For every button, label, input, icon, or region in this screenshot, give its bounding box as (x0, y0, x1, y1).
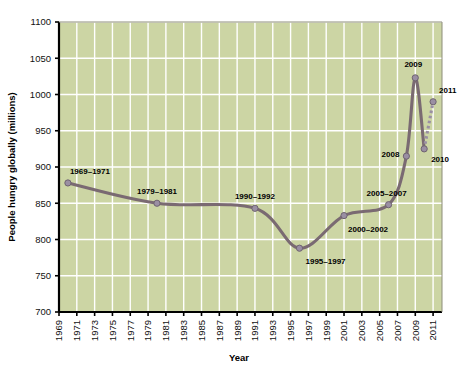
data-point-label: 1990–1992 (235, 192, 276, 201)
data-point-label: 1979–1981 (137, 187, 178, 196)
x-tick-label: 1997 (303, 320, 314, 341)
y-tick-label: 850 (35, 198, 51, 209)
x-tick-label: 1993 (267, 320, 278, 341)
x-tick-label: 1991 (249, 320, 260, 341)
x-tick-label: 1973 (89, 320, 100, 341)
x-tick-label: 1995 (285, 320, 296, 341)
data-point-marker (421, 146, 427, 152)
y-tick-label: 1000 (30, 89, 51, 100)
x-tick-label: 2001 (338, 320, 349, 341)
x-tick-label: 1969 (53, 320, 64, 341)
data-point-label: 2011 (439, 86, 457, 95)
data-point-label: 2008 (382, 150, 400, 159)
y-tick-label: 950 (35, 125, 51, 136)
x-tick-label: 1979 (142, 320, 153, 341)
x-tick-label: 2003 (356, 320, 367, 341)
x-tick-label: 2005 (374, 320, 385, 341)
x-tick-label: 1981 (160, 320, 171, 341)
y-tick-label: 800 (35, 234, 51, 245)
x-tick-label: 2011 (427, 320, 438, 340)
y-axis-title: People hungry globally (millions) (6, 92, 17, 241)
data-point-marker (65, 180, 71, 186)
data-point-label: 2000–2002 (348, 225, 389, 234)
data-point-marker (252, 205, 258, 211)
x-tick-label: 1971 (71, 320, 82, 341)
data-point-label: 1969–1971 (70, 167, 111, 176)
x-tick-label: 1975 (107, 320, 118, 341)
y-tick-label: 1050 (30, 53, 51, 64)
hunger-line-chart: 700750800850900950100010501100 196919711… (0, 0, 461, 373)
data-point-marker (412, 75, 418, 81)
y-tick-label: 750 (35, 270, 51, 281)
data-point-label: 2009 (404, 60, 422, 69)
data-point-label: 2005–2007 (367, 189, 408, 198)
data-point-label: 2010 (431, 155, 449, 164)
y-tick-label: 900 (35, 161, 51, 172)
x-tick-label: 1985 (196, 320, 207, 341)
data-point-marker (403, 153, 409, 159)
x-tick-label: 1989 (232, 320, 243, 341)
y-tick-label: 1100 (31, 16, 51, 27)
data-point-marker (341, 212, 347, 218)
x-tick-label: 2009 (410, 320, 421, 341)
data-point-marker (430, 99, 436, 105)
x-tick-label: 1983 (178, 320, 189, 341)
x-tick-label: 1977 (125, 320, 136, 341)
data-point-marker (154, 200, 160, 206)
data-point-marker (385, 202, 391, 208)
x-tick-label: 1999 (321, 320, 332, 341)
data-point-marker (296, 245, 302, 251)
x-axis-title: Year (229, 352, 249, 363)
x-tick-label: 2007 (392, 320, 403, 341)
data-point-label: 1995–1997 (305, 257, 346, 266)
x-tick-label: 1987 (214, 320, 225, 341)
y-tick-label: 700 (35, 306, 51, 317)
chart-svg: 700750800850900950100010501100 196919711… (0, 0, 461, 373)
